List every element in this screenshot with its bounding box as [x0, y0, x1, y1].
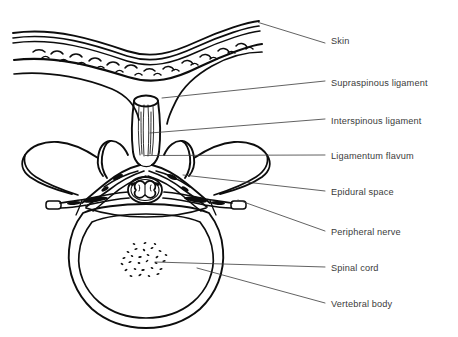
label-epidural-space: Epidural space: [331, 187, 394, 197]
leader-skin: [259, 23, 326, 44]
label-supraspinous-ligament: Supraspinous ligament: [331, 78, 428, 88]
leader-lines: [145, 23, 325, 304]
anatomy-figure: Skin Supraspinous ligament Interspinous …: [0, 0, 458, 337]
leader-interspinous-ligament: [150, 119, 325, 133]
label-texts: Skin Supraspinous ligament Interspinous …: [331, 36, 428, 309]
supraspinous-ligament-cap: [134, 96, 158, 107]
label-peripheral-nerve: Peripheral nerve: [331, 227, 401, 237]
leader-ligamentum-flavum: [145, 155, 325, 156]
subcutaneous-fat: [14, 43, 262, 80]
anatomy-illustration: Skin Supraspinous ligament Interspinous …: [0, 0, 458, 337]
label-spinal-cord: Spinal cord: [331, 263, 379, 273]
spinal-cord-oval: [128, 177, 162, 203]
leader-peripheral-nerve: [238, 200, 325, 231]
articular-processes: [98, 141, 195, 178]
label-interspinous-ligament: Interspinous ligament: [331, 116, 422, 126]
vertebral-body-outline: [69, 204, 224, 328]
label-skin: Skin: [331, 36, 349, 46]
transverse-processes: [22, 142, 269, 195]
label-vertebral-body: Vertebral body: [331, 299, 393, 309]
skin-epidermis-layers: [13, 21, 260, 65]
label-ligamentum-flavum: Ligamentum flavum: [331, 151, 414, 161]
leader-spinal-cord: [155, 262, 325, 267]
leader-supraspinous-ligament: [162, 81, 325, 98]
cancellous-bone: [120, 242, 167, 278]
deep-fascia: [14, 52, 262, 124]
